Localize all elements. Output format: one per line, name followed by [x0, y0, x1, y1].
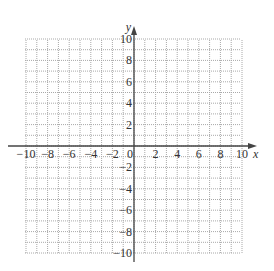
y-tick-label: 10: [120, 32, 132, 46]
coordinate-plane: −10−8−6−4−20246810246810−2−4−6−8−10xy: [0, 0, 274, 271]
x-tick-label: −8: [41, 147, 54, 161]
y-tick-label: −6: [119, 203, 132, 217]
y-tick-label: −2: [119, 160, 132, 174]
y-tick-label: −10: [113, 246, 132, 260]
x-tick-label: −6: [63, 147, 76, 161]
x-axis-label: x: [252, 147, 259, 161]
y-tick-label: −4: [119, 182, 132, 196]
x-tick-label: −4: [84, 147, 97, 161]
x-tick-label: 10: [236, 147, 248, 161]
tick-labels: −10−8−6−4−20246810246810−2−4−6−8−10xy: [17, 20, 259, 260]
x-tick-label: 8: [217, 147, 223, 161]
y-axis-label: y: [125, 20, 132, 34]
x-tick-label: −10: [17, 147, 36, 161]
y-tick-label: 2: [126, 118, 132, 132]
y-tick-label: 8: [126, 53, 132, 67]
y-tick-label: −8: [119, 225, 132, 239]
axes: [8, 26, 257, 262]
y-tick-label: 4: [126, 96, 132, 110]
x-tick-label: 2: [153, 147, 159, 161]
y-tick-label: 6: [126, 75, 132, 89]
x-tick-label: −2: [106, 147, 119, 161]
x-tick-label: 6: [196, 147, 202, 161]
x-tick-label: 4: [174, 147, 180, 161]
x-tick-label: 0: [127, 147, 133, 161]
